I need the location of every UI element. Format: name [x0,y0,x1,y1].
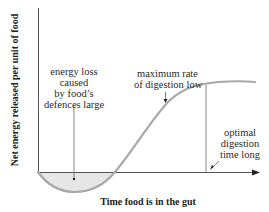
annotation-line: time long [212,149,268,160]
optimal-arrowhead [210,165,214,170]
energy-loss-pointer-dot [73,178,75,180]
annotation-line: optimal [212,127,268,138]
annotation-line: digestion [212,138,268,149]
annotation-line: defences large [42,99,106,110]
x-axis-label: Time food is in the gut [100,196,196,207]
optimal-time-annotation: optimal digestion time long [212,127,268,160]
max-rate-annotation: maximum rate of digestion low [134,68,206,90]
annotation-line: of digestion low [134,79,206,90]
y-axis-label: Net energy released per unit of food [9,14,20,166]
annotation-line: energy loss [42,66,106,77]
annotation-line: by food’s [42,88,106,99]
energy-loss-annotation: energy loss caused by food’s defences la… [42,66,106,110]
annotation-line: caused [42,77,106,88]
annotation-line: maximum rate [134,68,206,79]
x-axis-arrowhead [252,170,260,176]
chart-canvas [0,0,269,212]
